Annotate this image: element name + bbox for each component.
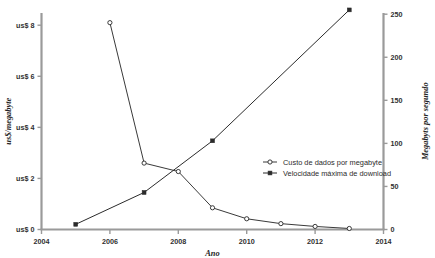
data-point-marker [313, 224, 317, 228]
y-axis-tick-label: us$ 8 [16, 21, 34, 30]
legend-marker-filled-square [268, 171, 272, 175]
y-axis-title: us$/megabyte [4, 97, 13, 144]
x-axis-tick-label: 2012 [307, 237, 323, 246]
data-point-marker [347, 8, 351, 12]
x-axis-tick-label: 2010 [239, 237, 255, 246]
y2-axis-tick-label: 150 [391, 96, 403, 105]
data-point-marker [279, 222, 283, 226]
data-point-marker [108, 21, 112, 25]
x-axis-tick-label: 2004 [34, 237, 50, 246]
y-axis-tick-label: us$ 6 [16, 72, 34, 81]
chart-background [0, 0, 435, 258]
y2-axis-tick-label: 0 [391, 225, 395, 234]
y2-axis-tick-label: 250 [391, 10, 403, 19]
line-chart: us$ 0us$ 2us$ 4us$ 6us$ 8050100150200250… [0, 0, 435, 258]
y2-axis-tick-label: 200 [391, 53, 403, 62]
legend-marker-open-circle [268, 160, 272, 164]
x-axis-tick-label: 2006 [102, 237, 118, 246]
legend-label: Velocidade máxima de download [283, 169, 391, 178]
chart-container: us$ 0us$ 2us$ 4us$ 6us$ 8050100150200250… [0, 0, 435, 258]
data-point-marker [347, 226, 351, 230]
x-axis-tick-label: 2008 [170, 237, 186, 246]
x-axis-tick-label: 2014 [376, 237, 392, 246]
x-axis-title: Ano [204, 249, 219, 258]
legend-item-2[interactable]: Velocidade máxima de download [263, 169, 391, 178]
y-axis-tick-label: us$ 2 [16, 174, 34, 183]
y-axis-tick-label: us$ 4 [16, 123, 34, 132]
data-point-marker [210, 206, 214, 210]
data-point-marker [211, 139, 215, 143]
y2-axis-tick-label: 100 [391, 139, 403, 148]
y-axis-tick-label: us$ 0 [16, 225, 34, 234]
data-point-marker [245, 217, 249, 221]
y2-axis-title: Megabyts por segundo [421, 82, 430, 161]
data-point-marker [74, 222, 78, 226]
data-point-marker [176, 169, 180, 173]
data-point-marker [142, 191, 146, 195]
y2-axis-tick-label: 50 [391, 182, 399, 191]
legend-label: Custo de dados por megabyte [283, 158, 382, 167]
data-point-marker [142, 161, 146, 165]
